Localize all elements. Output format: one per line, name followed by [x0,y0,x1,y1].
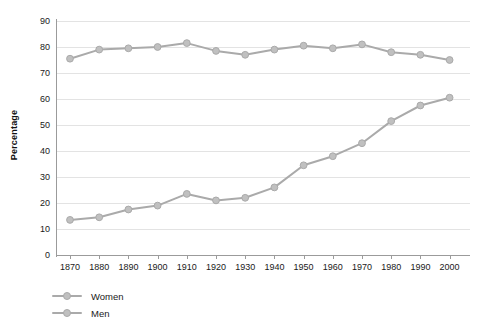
gridline [56,21,470,22]
y-axis-tick-label: 10 [24,225,50,234]
plot-area [56,21,470,255]
x-axis-tick-mark [128,255,129,259]
x-axis-tick-label: 1920 [206,263,226,272]
chart-legend: WomenMen [52,288,252,322]
gridline [56,99,470,100]
x-axis-tick-mark [158,255,159,259]
x-axis-line [56,255,470,256]
y-axis-title: Percentage [0,0,28,270]
x-axis-tick-mark [304,255,305,259]
gridline [56,151,470,152]
y-axis-tick-label: 0 [24,251,50,260]
gridline [56,73,470,74]
y-axis-title-text: Percentage [9,110,19,161]
y-axis-tick-label: 50 [24,121,50,130]
gridline [56,47,470,48]
y-axis-tick-label: 60 [24,95,50,104]
x-axis-tick-mark [450,255,451,259]
x-axis-tick-mark [245,255,246,259]
x-axis-tick-label: 1910 [177,263,197,272]
legend-item-men[interactable]: Men [52,305,252,321]
y-axis-tick-label: 30 [24,173,50,182]
gridline [56,177,470,178]
legend-swatch-icon [52,290,82,302]
y-axis-tick-label: 20 [24,199,50,208]
x-axis-tick-label: 1990 [410,263,430,272]
y-axis-tick-label: 90 [24,17,50,26]
x-axis-tick-mark [274,255,275,259]
x-axis-tick-label: 2000 [440,263,460,272]
gridline [56,125,470,126]
x-axis-tick-label: 1960 [323,263,343,272]
y-axis-tick-label: 70 [24,69,50,78]
x-axis-tick-label: 1870 [60,263,80,272]
x-axis-tick-mark [99,255,100,259]
x-axis-tick-mark [70,255,71,259]
y-axis-tick-labels: 0102030405060708090 [22,0,50,330]
legend-item-women[interactable]: Women [52,288,252,304]
x-axis-tick-label: 1980 [381,263,401,272]
x-axis-tick-label: 1940 [264,263,284,272]
x-axis-tick-label: 1930 [235,263,255,272]
x-axis-tick-label: 1880 [89,263,109,272]
gridline [56,229,470,230]
legend-label: Men [91,308,109,319]
x-axis-tick-mark [391,255,392,259]
x-axis-tick-label: 1970 [352,263,372,272]
x-axis-tick-mark [216,255,217,259]
y-axis-tick-label: 80 [24,43,50,52]
x-axis-tick-label: 1890 [118,263,138,272]
x-axis-tick-mark [420,255,421,259]
y-axis-line [56,19,57,257]
x-axis-tick-label: 1900 [148,263,168,272]
line-chart: Percentage 0102030405060708090 187018801… [0,0,484,330]
x-axis-tick-mark [187,255,188,259]
legend-label: Women [91,291,124,302]
x-axis-tick-mark [333,255,334,259]
legend-swatch-icon [52,307,82,319]
x-axis-tick-mark [362,255,363,259]
x-axis-tick-label: 1950 [294,263,314,272]
y-axis-tick-label: 40 [24,147,50,156]
gridline [56,203,470,204]
